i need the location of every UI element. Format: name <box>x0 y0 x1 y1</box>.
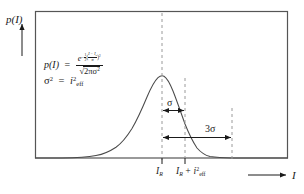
formula-exp-arg: I − IRσ <box>88 52 97 61</box>
variance-lhs-sym: σ <box>44 75 50 86</box>
formula-equals: = <box>65 59 71 70</box>
formula-den-text: 2πσ <box>84 66 97 76</box>
x-tick-label-sigma-effsub: eff <box>199 171 205 177</box>
sigma-annotation-label: σ <box>167 98 172 108</box>
variance-lhs-power: 2 <box>50 75 53 82</box>
x-tick-label-mean: IR <box>156 167 163 177</box>
x-tick-label-mean-sub: R <box>159 171 163 177</box>
formula-numerator: e−12(I − IRσ)2 <box>76 53 103 65</box>
variance-rhs-sub: eff <box>76 80 83 87</box>
x-tick-label-sigma-sub: R <box>179 171 183 177</box>
x-axis-label-text: I <box>292 169 296 181</box>
sigma-annotation-text: σ <box>167 97 172 108</box>
formula-radical: √2πσ2 <box>78 66 99 76</box>
formula-exp-arg-num: I − I <box>88 51 95 56</box>
formula-exp-half: 12 <box>84 53 86 62</box>
variance-relation: σ2 = i2eff <box>44 76 83 87</box>
y-axis-label-text: p(I) <box>6 13 23 25</box>
y-axis-label: p(I) <box>6 14 23 25</box>
formula-lhs: p(I) <box>44 59 59 70</box>
formula-denominator: √2πσ2 <box>76 65 103 77</box>
three-sigma-annotation-label: 3σ <box>205 124 215 134</box>
formula-exp-power: 2 <box>99 54 101 58</box>
formula-exponent: −12(I − IRσ)2 <box>81 54 100 60</box>
formula-exp-arg-den: σ <box>92 57 94 62</box>
figure-canvas <box>0 0 304 194</box>
x-tick-label-sigma: IR+ i2eff <box>176 167 206 177</box>
three-sigma-annotation-text: 3σ <box>205 123 215 134</box>
x-axis-label: I <box>292 170 296 181</box>
gaussian-probability-figure: p(I) I p(I) = e−12(I − IRσ)2 √2πσ2 σ2 = … <box>0 0 304 194</box>
variance-equals: = <box>59 75 65 86</box>
x-tick-label-sigma-extra: + i <box>185 166 196 176</box>
formula-fraction: e−12(I − IRσ)2 √2πσ2 <box>76 53 103 77</box>
formula-exp-arg-sub: R <box>96 54 98 57</box>
formula-den-power: 2 <box>97 66 100 72</box>
